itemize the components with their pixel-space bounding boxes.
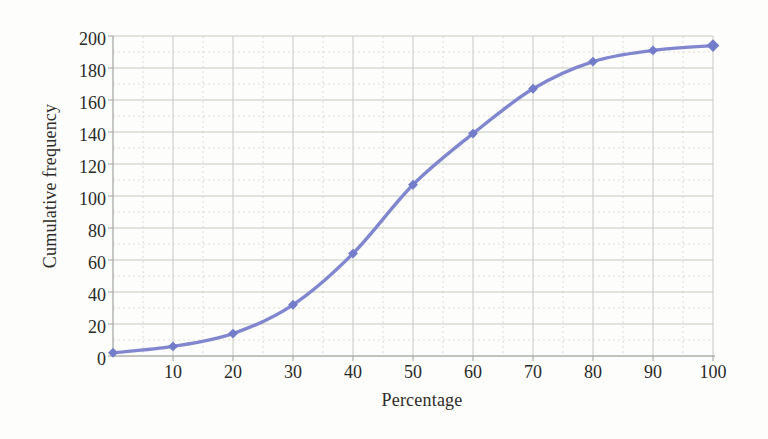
chart-figure: Cumulative frequency Percentage 02040608…: [0, 0, 768, 439]
x-tick-label: 20: [203, 361, 263, 383]
x-tick-label: 90: [623, 361, 683, 383]
y-tick-label: 180: [0, 60, 106, 82]
data-point-marker: [228, 329, 238, 339]
y-tick-label: 140: [0, 124, 106, 146]
data-point-marker: [588, 57, 598, 67]
data-point-marker: [168, 341, 178, 351]
x-tick-label: 10: [143, 361, 203, 383]
y-tick-label: 80: [0, 220, 106, 242]
y-tick-label: 120: [0, 156, 106, 178]
x-tick-label: 100: [683, 361, 743, 383]
y-tick-label: 160: [0, 92, 106, 114]
x-tick-label: 30: [263, 361, 323, 383]
x-tick-label: 60: [443, 361, 503, 383]
x-tick-label: 50: [383, 361, 443, 383]
y-tick-label: 0: [0, 348, 106, 370]
x-axis-title: Percentage: [382, 390, 463, 411]
data-point-marker: [648, 45, 658, 55]
x-tick-label: 70: [503, 361, 563, 383]
y-tick-label: 100: [0, 188, 106, 210]
y-tick-label: 60: [0, 252, 106, 274]
y-tick-label: 200: [0, 28, 106, 50]
x-tick-label: 80: [563, 361, 623, 383]
data-point-marker: [707, 39, 720, 52]
x-tick-label: 40: [323, 361, 383, 383]
y-tick-label: 20: [0, 316, 106, 338]
y-tick-label: 40: [0, 284, 106, 306]
